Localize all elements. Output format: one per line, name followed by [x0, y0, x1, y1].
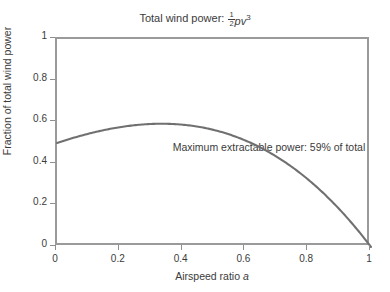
x-tick-mark [243, 245, 244, 250]
chart-figure: Total wind power:12pv3 Fraction of total… [0, 0, 390, 292]
fraction-one-half: 12 [228, 11, 234, 27]
x-tick-mark [369, 245, 370, 250]
y-tick-mark [50, 162, 55, 163]
x-axis-label: Airspeed ratio a [55, 270, 369, 282]
y-tick-label: 0.8 [7, 72, 47, 83]
formula-body: pv [235, 15, 247, 27]
y-tick-mark [50, 120, 55, 121]
x-tick-label: 0.2 [98, 253, 138, 264]
y-tick-label: 1 [7, 30, 47, 41]
x-tick-label: 0.6 [223, 253, 263, 264]
x-tick-mark [55, 245, 56, 250]
y-tick-mark [50, 203, 55, 204]
betz-curve [57, 39, 371, 247]
betz-curve-path [57, 124, 371, 247]
formula-exponent: 3 [246, 13, 250, 22]
chart-title: Total wind power:12pv3 [0, 11, 390, 27]
y-tick-label: 0.2 [7, 196, 47, 207]
plot-area: Maximum extractable power: 59% of total [55, 37, 369, 245]
x-tick-mark [118, 245, 119, 250]
x-tick-mark [306, 245, 307, 250]
x-tick-label: 0.4 [161, 253, 201, 264]
y-tick-label: 0 [7, 238, 47, 249]
y-tick-mark [50, 37, 55, 38]
fraction-denominator: 2 [228, 20, 234, 28]
x-tick-label: 1 [349, 253, 389, 264]
y-tick-label: 0.6 [7, 113, 47, 124]
chart-title-formula: 12pv3 [228, 11, 250, 27]
x-axis-label-text: Airspeed ratio [175, 270, 240, 282]
chart-title-text: Total wind power: [139, 12, 224, 24]
x-tick-mark [181, 245, 182, 250]
x-tick-label: 0.8 [286, 253, 326, 264]
x-axis-label-variable: a [243, 270, 249, 282]
y-tick-mark [50, 79, 55, 80]
x-tick-label: 0 [35, 253, 75, 264]
y-tick-label: 0.4 [7, 155, 47, 166]
